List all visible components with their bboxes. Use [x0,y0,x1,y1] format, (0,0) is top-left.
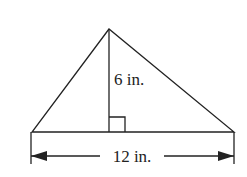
base-label: 12 in. [113,147,152,166]
arrow-left-icon [31,151,47,161]
height-label: 6 in. [114,70,144,89]
arrow-right-icon [218,151,234,161]
triangle-diagram: 6 in. 12 in. [0,0,247,177]
right-angle-icon [109,117,125,132]
